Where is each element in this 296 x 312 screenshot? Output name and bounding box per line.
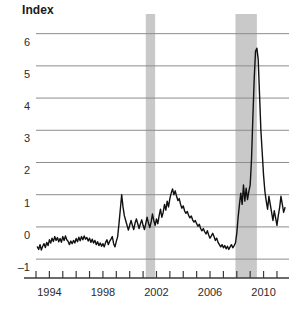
y-tick-label-6: 6 (24, 36, 30, 48)
x-tick-label-2002: 2002 (144, 286, 168, 298)
y-tick-label--1: –1 (18, 261, 30, 273)
shaded-bands-layer (146, 14, 257, 278)
x-tick-labels-layer: 19941998200220062010 (37, 286, 276, 298)
y-tick-label-1: 1 (24, 197, 30, 209)
y-tick-label-0: 0 (24, 229, 30, 241)
x-tick-label-2010: 2010 (251, 286, 275, 298)
y-tick-label-4: 4 (24, 100, 30, 112)
y-tick-label-5: 5 (24, 68, 30, 80)
y-tick-label-3: 3 (24, 132, 30, 144)
y-tick-label-2: 2 (24, 164, 30, 176)
shaded-band-recession-2001 (146, 14, 155, 278)
chart-plot: 6543210–1 19941998200220062010 (0, 0, 296, 312)
shaded-band-recession-2007-2009 (235, 14, 256, 278)
x-tick-label-2006: 2006 (198, 286, 222, 298)
x-tick-label-1994: 1994 (37, 286, 61, 298)
x-tick-label-1998: 1998 (91, 286, 115, 298)
y-tick-labels-layer: 6543210–1 (18, 36, 30, 273)
chart-container: Index 6543210–1 19941998200220062010 (0, 0, 296, 312)
